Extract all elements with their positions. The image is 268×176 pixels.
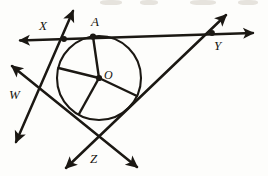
label-Y: Y [214, 39, 221, 52]
label-W: W [9, 88, 20, 101]
radius-OA [93, 37, 99, 79]
radius-O-left [59, 68, 100, 78]
radius-O-bottom [79, 78, 99, 114]
label-O: O [104, 69, 113, 81]
geometry-figure: X A Y O W Z [0, 0, 268, 176]
label-Z: Z [90, 152, 97, 165]
label-A: A [91, 15, 99, 28]
center-O-point [96, 75, 102, 81]
vertex-X-point [61, 36, 67, 42]
vertex-Y-point [209, 30, 215, 36]
tangent-point-A [90, 33, 96, 39]
label-X: X [39, 19, 47, 32]
